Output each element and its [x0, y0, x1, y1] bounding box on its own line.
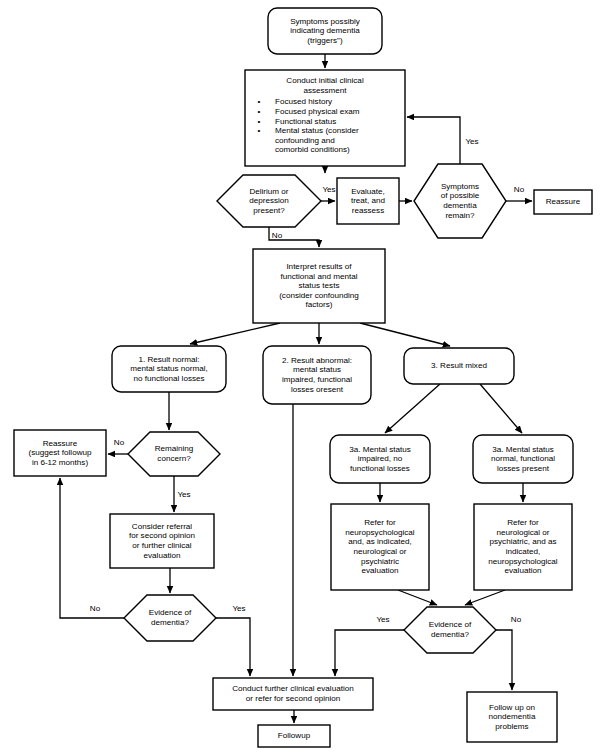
refer-for-neuropsychological-evaluation[interactable]: Refer forneuropsychologicaland, as indic… — [331, 504, 429, 590]
delirium-or-depression-present-decision-line-1: depression — [249, 196, 289, 205]
conduct-initial-clinical-assessment-bullet-dot-2: • — [258, 117, 261, 126]
refer-for-neurological-or-psychiatric-evaluation-line-4: neuropsychological — [488, 557, 557, 566]
evaluate-treat-and-reassess-line-1: treat, and — [351, 196, 385, 205]
mental-status-normal-functional-losses-present-line-1: normal, functional — [491, 454, 555, 463]
edge-label-no-delirium: No — [272, 231, 283, 240]
symptoms-of-possible-dementia-remain-decision[interactable]: Symptomsof possibledementiaremain? — [414, 164, 506, 238]
follow-up-on-nondementia-problems-line-2: problems — [495, 722, 528, 731]
refer-for-neurological-or-psychiatric-evaluation-line-0: Refer for — [507, 518, 539, 527]
evidence-of-dementia-decision-right-line-1: dementia? — [431, 630, 469, 639]
conduct-further-clinical-evaluation-line-1: or refer for second opinion — [246, 694, 340, 703]
flowchart-svg: Symptoms possiblyindicating dementia(tri… — [0, 0, 600, 752]
symptoms-of-possible-dementia-remain-decision-line-3: remain? — [445, 211, 475, 220]
interpret-results-of-tests-line-4: factors) — [306, 300, 333, 309]
result-normal-outcome-line-2: no functional losses — [133, 374, 204, 383]
refer-for-neuropsychological-evaluation-line-3: neurological or — [353, 547, 406, 556]
follow-up-on-nondementia-problems[interactable]: Follow up onnondementiaproblems — [467, 692, 557, 742]
result-normal-outcome[interactable]: 1. Result normal:mental status normal,no… — [112, 346, 226, 392]
consider-referral-second-opinion[interactable]: Consider referralfor second opinionor fu… — [110, 514, 214, 568]
remaining-concern-decision-line-0: Remaining — [155, 444, 194, 453]
symptoms-of-possible-dementia-remain-decision-line-0: Symptoms — [441, 182, 479, 191]
evidence-of-dementia-decision-left-line-0: Evidence of — [149, 608, 192, 617]
result-abnormal-outcome[interactable]: 2. Result abnormal:mental statusimpaired… — [263, 346, 371, 404]
reassure-box[interactable]: Reassure — [534, 190, 592, 214]
evaluate-treat-and-reassess[interactable]: Evaluate,treat, andreassess — [337, 178, 399, 224]
reassure-suggest-followup-box-line-2: in 6-12 months) — [32, 458, 89, 467]
remaining-concern-decision[interactable]: Remainingconcern? — [128, 432, 220, 476]
edge-label-yes-delirium: Yes — [322, 185, 335, 194]
result-mixed-outcome[interactable]: 3. Result mixed — [404, 348, 514, 384]
evidence-of-dementia-decision-left[interactable]: Evidence ofdementia? — [124, 595, 216, 641]
conduct-initial-clinical-assessment-line-1: assessment — [303, 86, 347, 95]
mental-status-impaired-no-functional-losses-line-0: 3a. Mental status — [349, 445, 411, 454]
mixed-to-3a-impaired — [385, 384, 440, 433]
refer-left-to-evidence-right — [398, 590, 437, 605]
reassure-box-line-0: Reassure — [546, 197, 581, 206]
symptoms-remain-yes-loop — [407, 117, 460, 164]
edge-label-no-symptoms-remain: No — [514, 185, 525, 194]
symptoms-possibly-indicating-dementia-line-2: (triggers") — [307, 36, 343, 45]
refer-for-neurological-or-psychiatric-evaluation-line-1: neurological or — [496, 528, 549, 537]
conduct-further-clinical-evaluation-line-0: Conduct further clinical evaluation — [232, 684, 353, 693]
conduct-initial-clinical-assessment-bullet-3: Mental status (consider — [275, 126, 359, 135]
symptoms-possibly-indicating-dementia-line-1: indicating dementia — [290, 26, 360, 35]
refer-for-neurological-or-psychiatric-evaluation-line-5: evaluation — [505, 566, 542, 575]
mental-status-normal-functional-losses-present-line-2: losses present — [497, 464, 550, 473]
refer-for-neuropsychological-evaluation-line-0: Refer for — [364, 518, 396, 527]
edge-label-yes-evidence-left: Yes — [232, 604, 245, 613]
refer-for-neuropsychological-evaluation-line-4: psychiatric — [361, 557, 399, 566]
followup-box[interactable]: Followup — [258, 725, 330, 747]
mental-status-impaired-no-functional-losses[interactable]: 3a. Mental statusimpaired, nofunctional … — [330, 435, 430, 483]
refer-for-neurological-or-psychiatric-evaluation-line-2: psychiatric, and as — [489, 537, 556, 546]
edge-label-no-evidence-left: No — [90, 604, 101, 613]
evidence-left-yes-to-conduct — [216, 618, 250, 676]
interpret-to-result-mixed — [360, 323, 450, 346]
followup-box-line-0: Followup — [278, 731, 311, 740]
interpret-results-of-tests[interactable]: Interpret results offunctional and menta… — [253, 249, 385, 323]
delirium-or-depression-present-decision-line-0: Delirium or — [249, 187, 288, 196]
conduct-initial-clinical-assessment-line-0: Conduct initial clinical — [286, 76, 364, 85]
result-abnormal-outcome-line-3: losses oresent — [291, 385, 344, 394]
conduct-initial-clinical-assessment-bullet-2: Functional status — [275, 117, 336, 126]
edge-label-no-evidence-right: No — [511, 615, 522, 624]
result-mixed-outcome-line-0: 3. Result mixed — [431, 361, 487, 370]
evaluate-treat-and-reassess-line-0: Evaluate, — [351, 187, 385, 196]
result-normal-outcome-line-1: mental status normal, — [130, 364, 207, 373]
consider-referral-second-opinion-line-3: evaluation — [144, 551, 181, 560]
symptoms-possibly-indicating-dementia[interactable]: Symptoms possiblyindicating dementia(tri… — [268, 8, 382, 54]
remaining-concern-decision-line-1: concern? — [157, 454, 191, 463]
flowchart-canvas: Symptoms possiblyindicating dementia(tri… — [0, 0, 600, 752]
shape-layer: Symptoms possiblyindicating dementia(tri… — [14, 8, 592, 747]
evaluate-treat-and-reassess-line-2: reassess — [352, 206, 384, 215]
result-abnormal-outcome-line-0: 2. Result abnormal: — [282, 356, 352, 365]
edge-label-yes-concern: Yes — [177, 490, 190, 499]
conduct-initial-clinical-assessment-bullet-0: Focused history — [275, 97, 333, 106]
refer-right-to-evidence-right — [465, 590, 505, 605]
interpret-results-of-tests-line-1: functional and mental — [281, 272, 358, 281]
interpret-results-of-tests-line-2: status tests — [299, 281, 340, 290]
result-abnormal-outcome-line-2: impaired, functional — [282, 375, 352, 384]
symptoms-of-possible-dementia-remain-decision-line-1: of possible — [441, 191, 480, 200]
result-normal-outcome-line-0: 1. Result normal: — [138, 355, 199, 364]
symptoms-possibly-indicating-dementia-line-0: Symptoms possibly — [290, 17, 361, 26]
conduct-initial-clinical-assessment-bullet-cont-1: comorbid conditions) — [275, 145, 350, 154]
mental-status-impaired-no-functional-losses-line-2: functional losses — [350, 464, 410, 473]
conduct-initial-clinical-assessment-bullet-dot-1: • — [258, 107, 261, 116]
refer-for-neurological-or-psychiatric-evaluation[interactable]: Refer forneurological orpsychiatric, and… — [474, 504, 572, 590]
evidence-of-dementia-decision-right-line-0: Evidence of — [429, 620, 472, 629]
interpret-results-of-tests-line-3: (consider confounding — [279, 291, 359, 300]
reassure-suggest-followup-box[interactable]: Reassure(suggest followupin 6-12 months) — [14, 430, 106, 476]
mental-status-normal-functional-losses-present[interactable]: 3a. Mental statusnormal, functionallosse… — [473, 435, 573, 483]
conduct-further-clinical-evaluation[interactable]: Conduct further clinical evaluationor re… — [213, 678, 373, 710]
result-abnormal-outcome-line-1: mental status — [293, 365, 341, 374]
edge-label-no-concern: No — [114, 438, 125, 447]
delirium-or-depression-present-decision[interactable]: Delirium ordepressionpresent? — [217, 175, 321, 227]
consider-referral-second-opinion-line-2: or further clinical — [132, 541, 192, 550]
mental-status-normal-functional-losses-present-line-0: 3a. Mental status — [492, 445, 554, 454]
consider-referral-second-opinion-line-1: for second opinion — [129, 531, 195, 540]
conduct-initial-clinical-assessment-bullet-dot-0: • — [258, 97, 261, 106]
conduct-initial-clinical-assessment[interactable]: Conduct initial clinicalassessment•Focus… — [245, 70, 405, 166]
conduct-initial-clinical-assessment-bullet-cont-0: confounding and — [275, 136, 335, 145]
evidence-of-dementia-decision-right[interactable]: Evidence ofdementia? — [404, 607, 496, 653]
follow-up-on-nondementia-problems-line-0: Follow up on — [489, 703, 535, 712]
